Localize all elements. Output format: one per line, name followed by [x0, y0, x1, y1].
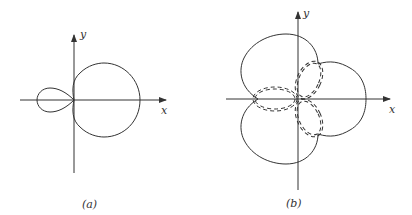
y-axis-label-a: y [80, 28, 86, 41]
figure-b [226, 12, 390, 190]
figure-a [20, 35, 166, 173]
caption-b: (b) [286, 197, 302, 210]
diagram-canvas [0, 0, 412, 215]
solid-lobe-bottom [241, 99, 318, 164]
x-axis-label-a: x [161, 104, 167, 117]
solid-lobe-top [241, 34, 318, 99]
caption-a: (a) [82, 198, 97, 211]
y-axis-label-b: y [303, 7, 309, 20]
x-axis-label-b: x [389, 103, 395, 116]
